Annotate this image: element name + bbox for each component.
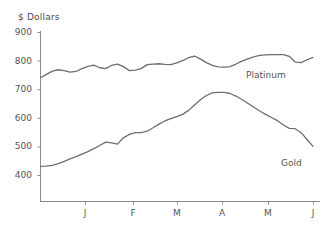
series-line-gold bbox=[41, 92, 314, 166]
line-chart: $ Dollars 900 800 700 600 500 400 J F M … bbox=[0, 0, 330, 239]
plot-area bbox=[0, 0, 330, 239]
series-label-gold: Gold bbox=[281, 158, 302, 168]
axes bbox=[38, 31, 321, 205]
series-label-platinum: Platinum bbox=[246, 70, 286, 80]
